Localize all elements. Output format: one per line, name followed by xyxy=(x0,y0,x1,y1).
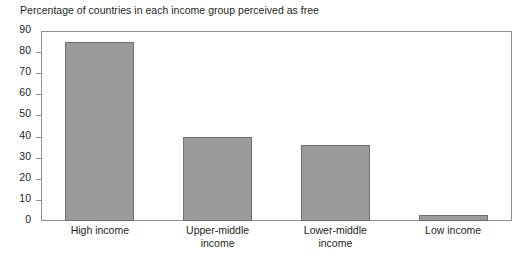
bar xyxy=(301,145,370,221)
x-axis-category-label-line: Low income xyxy=(394,224,512,237)
x-axis-category-label-line: income xyxy=(159,237,277,250)
x-axis-category-label-line: High income xyxy=(41,224,159,237)
x-axis-category-label-line: income xyxy=(277,237,395,250)
x-axis-category-label-line: Upper-middle xyxy=(159,224,277,237)
x-axis-category-label: Upper-middleincome xyxy=(159,224,277,250)
x-axis-labels: High incomeUpper-middleincomeLower-middl… xyxy=(41,224,512,262)
x-axis-category-label: Lower-middleincome xyxy=(277,224,395,250)
x-axis-category-label-line: Lower-middle xyxy=(277,224,395,237)
bars-layer xyxy=(0,0,531,262)
bar xyxy=(65,42,134,221)
bar xyxy=(183,137,252,221)
bar xyxy=(419,215,488,221)
x-axis-category-label: Low income xyxy=(394,224,512,237)
x-axis-category-label: High income xyxy=(41,224,159,237)
bar-chart: Percentage of countries in each income g… xyxy=(0,0,531,262)
